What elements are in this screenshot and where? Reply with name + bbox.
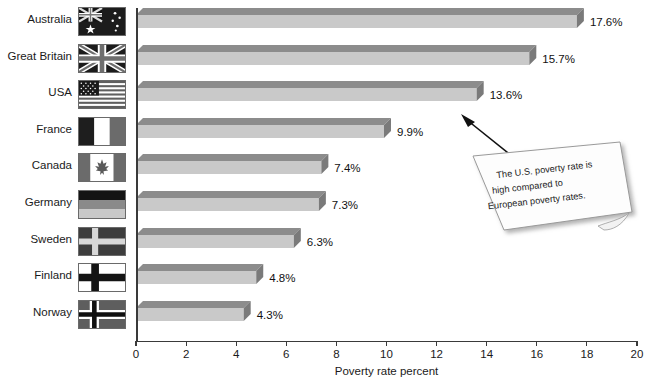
- bar-value-label: 13.6%: [490, 90, 523, 102]
- bar-top-face: [136, 191, 326, 198]
- x-tick: [286, 341, 287, 346]
- x-tick-label: 10: [380, 349, 393, 361]
- category-label: Norway: [0, 307, 72, 319]
- bar: [136, 191, 328, 213]
- x-tick: [336, 341, 337, 346]
- flag-norway: [78, 300, 126, 329]
- bar: [136, 45, 538, 67]
- x-tick-label: 20: [631, 349, 644, 361]
- x-tick-label: 14: [480, 349, 493, 361]
- bar-front-face: [136, 15, 577, 28]
- bar-top-face: [136, 8, 584, 15]
- bar-front-face: [136, 52, 529, 65]
- bar-front-face: [136, 308, 244, 321]
- x-axis-title: Poverty rate percent: [136, 366, 637, 378]
- x-tick-label: 12: [430, 349, 443, 361]
- bar-value-label: 4.3%: [257, 310, 283, 322]
- poverty-rate-chart: Australia Great Britain: [0, 0, 656, 384]
- bar-value-label: 4.8%: [269, 273, 295, 285]
- x-tick-label: 4: [233, 349, 239, 361]
- bar: [136, 8, 586, 30]
- bar: [136, 228, 303, 250]
- x-tick: [386, 341, 387, 346]
- bar-value-label: 6.3%: [307, 237, 333, 249]
- x-tick-label: 6: [283, 349, 289, 361]
- x-tick: [436, 341, 437, 346]
- bar: [136, 118, 393, 140]
- category-label: France: [0, 124, 72, 136]
- category-label-cell: Germany: [0, 197, 72, 211]
- category-label: Germany: [0, 197, 72, 209]
- bar-value-label: 17.6%: [590, 17, 623, 29]
- bar-front-face: [136, 235, 294, 248]
- flag-canada: [78, 153, 126, 182]
- bar: [136, 301, 253, 323]
- flag-usa: [78, 80, 126, 109]
- annotation-note: The U.S. poverty rate is high compared t…: [470, 142, 640, 230]
- x-tick-label: 2: [183, 349, 189, 361]
- bar-value-label: 15.7%: [542, 54, 575, 66]
- category-label-cell: Finland: [0, 270, 72, 284]
- flag-sweden: [78, 227, 126, 256]
- bar: [136, 264, 265, 286]
- bar: [136, 81, 486, 103]
- x-tick-label: 18: [580, 349, 593, 361]
- category-label-cell: Great Britain: [0, 51, 72, 65]
- flag-france: [78, 117, 126, 146]
- x-tick: [135, 341, 136, 346]
- category-label: Canada: [0, 160, 72, 172]
- category-label-cell: Norway: [0, 307, 72, 321]
- flag-finland: [78, 263, 126, 292]
- bar-front-face: [136, 88, 477, 101]
- x-tick: [536, 341, 537, 346]
- bar-front-face: [136, 198, 319, 211]
- category-label: USA: [0, 87, 72, 99]
- bar-top-face: [136, 45, 536, 52]
- bar-value-label: 7.4%: [334, 163, 360, 175]
- bar-top-face: [136, 154, 328, 161]
- category-label-cell: USA: [0, 87, 72, 101]
- x-tick-label: 0: [133, 349, 139, 361]
- bar-top-face: [136, 264, 263, 271]
- bar-front-face: [136, 161, 321, 174]
- x-tick: [636, 341, 637, 346]
- category-label: Australia: [0, 14, 72, 26]
- flag-germany: [78, 190, 126, 219]
- x-tick-label: 8: [333, 349, 339, 361]
- x-tick: [486, 341, 487, 346]
- flag-australia: [78, 7, 126, 36]
- category-label-cell: Australia: [0, 14, 72, 28]
- bar-value-label: 7.3%: [332, 200, 358, 212]
- category-label: Finland: [0, 270, 72, 282]
- bar-front-face: [136, 271, 256, 284]
- x-tick: [586, 341, 587, 346]
- flag-great-britain: [78, 44, 126, 73]
- x-tick: [186, 341, 187, 346]
- bar: [136, 154, 330, 176]
- bar-top-face: [136, 118, 391, 125]
- x-tick: [236, 341, 237, 346]
- bar-value-label: 9.9%: [397, 127, 423, 139]
- category-label: Great Britain: [0, 51, 72, 63]
- category-label-cell: Sweden: [0, 234, 72, 248]
- category-label-cell: Canada: [0, 160, 72, 174]
- x-tick-label: 16: [530, 349, 543, 361]
- bar-front-face: [136, 125, 384, 138]
- y-axis-line: [136, 8, 138, 341]
- bar-top-face: [136, 301, 251, 308]
- category-label: Sweden: [0, 234, 72, 246]
- bar-top-face: [136, 228, 301, 235]
- category-label-cell: France: [0, 124, 72, 138]
- bar-top-face: [136, 81, 484, 88]
